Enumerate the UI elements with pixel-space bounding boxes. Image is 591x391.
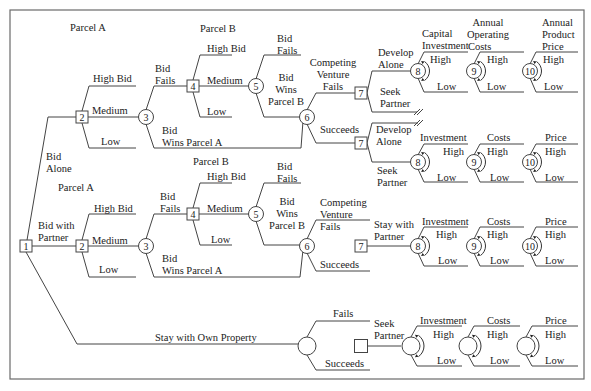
node-number: 9 [472, 157, 477, 168]
branch-label: High Bid [94, 203, 134, 214]
node-b3: 3 [139, 239, 154, 254]
node-c8 [402, 337, 420, 355]
branch-label: Stay with [374, 219, 415, 230]
node-a4: 4 [187, 80, 199, 92]
branch-label: Partner [374, 231, 405, 242]
branch-label: Low [437, 355, 457, 366]
node-number: 8 [416, 241, 421, 252]
branch-label: Parcel B [200, 23, 236, 34]
node-b9: 9 [467, 239, 482, 254]
branch-label: Alone [378, 59, 404, 70]
node-b5: 5 [249, 207, 264, 222]
branch-label: Investment [422, 216, 469, 227]
branch-label: Price [542, 41, 564, 52]
branch-label: Bid [46, 151, 62, 162]
branch-label: Fails [277, 173, 297, 184]
arrowhead-icon [421, 78, 425, 81]
node-c9 [459, 337, 477, 355]
branch-label: High [487, 146, 509, 157]
branch-labels: Parcel AParcel BHigh BidMediumLowBidFail… [38, 17, 575, 369]
branch-label: Low [99, 264, 119, 275]
arrowhead-icon [533, 169, 537, 172]
node-a9l: 9 [467, 155, 482, 170]
branch-label: Seek [374, 318, 395, 329]
arrowhead-icon [472, 354, 476, 357]
branch-label: Annual [542, 17, 573, 28]
chance-node-circle [517, 337, 535, 355]
branch-label: High [545, 329, 567, 340]
branch-label: Costs [487, 216, 510, 227]
branch-label: Low [545, 172, 565, 183]
branch-label: Bid [279, 196, 295, 207]
branch-label: High [436, 229, 458, 240]
node-number: 5 [254, 81, 259, 92]
arrowhead-icon [477, 236, 481, 239]
branch-label: Investment [420, 315, 467, 326]
decision-tree-diagram: 12345677891089102345678910 Parcel AParce… [0, 0, 591, 391]
node-number: 7 [359, 88, 364, 99]
branch-label: Price [545, 216, 567, 227]
branch-label: Bid [155, 63, 171, 74]
node-c7 [355, 340, 368, 353]
arrowhead-icon [533, 78, 537, 81]
node-number: 7 [359, 138, 364, 149]
node-b6: 6 [300, 239, 315, 254]
chance-node-circle [298, 337, 316, 355]
arrowhead-icon [415, 335, 419, 338]
node-number: 6 [305, 241, 310, 252]
branch-label: Bid [160, 191, 176, 202]
branch-label: High [430, 54, 452, 65]
branch-label: Parcel B [193, 156, 229, 167]
node-a3: 3 [139, 110, 154, 125]
node-number: 10 [525, 157, 535, 168]
arrowhead-icon [530, 335, 534, 338]
branch-label: Fails [320, 221, 340, 232]
branch-label: Medium [92, 235, 128, 246]
branch-label: Competing [320, 197, 367, 208]
arrowhead-icon [477, 61, 481, 64]
branch-label: Venture [320, 209, 353, 220]
branch-label: High Bid [207, 43, 247, 54]
node-number: 8 [416, 66, 421, 77]
branch-label: Fails [333, 308, 353, 319]
branch-label: Parcel A [58, 182, 94, 193]
distribution-arcs [415, 61, 542, 357]
node-number: 9 [472, 66, 477, 77]
branch-label: Develop [376, 124, 412, 135]
branch-label: High [443, 146, 465, 157]
arrowhead-icon [533, 236, 537, 239]
branch-label: Low [437, 172, 457, 183]
branch-label: Venture [317, 69, 350, 80]
node-a7l: 7 [355, 137, 367, 149]
node-b8: 8 [411, 239, 426, 254]
node-number: 8 [416, 157, 421, 168]
branch-label: Bid with [38, 220, 75, 231]
branch-label: Bid [162, 253, 178, 264]
branch-label: Costs [487, 132, 510, 143]
branch-label: Low [437, 81, 457, 92]
branch-label: High [433, 329, 455, 340]
branch-label: Wins [276, 208, 298, 219]
branch-label: Low [207, 106, 227, 117]
branch-label: Bid [277, 33, 293, 44]
branch-label: High [543, 54, 565, 65]
branch-label: Alone [376, 136, 402, 147]
node-a8l: 8 [411, 155, 426, 170]
branch-label: High [487, 54, 509, 65]
branch-label: High [545, 146, 567, 157]
branch-edge [307, 93, 355, 110]
branch-label: Parcel B [269, 220, 305, 231]
branch-label: Product [542, 29, 575, 40]
branch-label: Succeeds [320, 124, 359, 135]
arrowhead-icon [421, 236, 425, 239]
branch-label: Bid [162, 125, 178, 136]
branch-label: Low [487, 81, 507, 92]
branch-label: Investment [422, 40, 469, 51]
node-c6 [298, 337, 316, 355]
branch-label: Succeeds [325, 358, 364, 369]
branch-label: Price [545, 315, 567, 326]
branch-label: Low [101, 136, 121, 147]
branch-label: Low [545, 355, 565, 366]
node-a9u: 9 [467, 64, 482, 79]
arrowhead-icon [477, 169, 481, 172]
